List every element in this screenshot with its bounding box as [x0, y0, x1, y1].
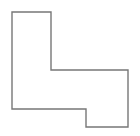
- drawing-canvas: [0, 0, 140, 136]
- shape-canvas-svg: [0, 0, 140, 136]
- canvas-background: [0, 0, 140, 136]
